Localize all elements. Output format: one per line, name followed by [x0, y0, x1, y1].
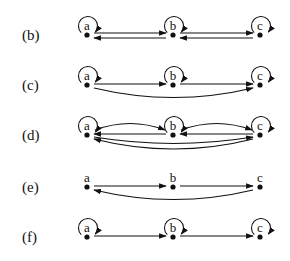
node-label-a: a	[84, 18, 90, 33]
node-dot-b	[170, 184, 175, 189]
node-label-c: c	[257, 170, 263, 185]
node-dot-c	[257, 82, 262, 87]
edge-a-to-b	[95, 124, 165, 131]
node-dot-a	[84, 234, 89, 239]
node-dot-a	[84, 32, 89, 37]
edge-b-to-c	[181, 124, 252, 131]
node-dot-b	[170, 32, 175, 37]
node-dot-a	[84, 184, 89, 189]
node-label-c: c	[257, 68, 263, 83]
node-dot-c	[257, 234, 262, 239]
graph-canvas: abcabcabcabcabc	[0, 0, 290, 261]
node-dot-c	[257, 184, 262, 189]
node-dot-a	[84, 132, 89, 137]
node-label-b: b	[170, 118, 177, 133]
node-label-b: b	[170, 68, 177, 83]
node-dot-c	[257, 132, 262, 137]
node-label-c: c	[257, 118, 263, 133]
node-label-a: a	[84, 170, 90, 185]
node-dot-b	[170, 82, 175, 87]
edge-a-to-c	[94, 88, 253, 98]
node-dot-c	[257, 32, 262, 37]
node-label-a: a	[84, 220, 90, 235]
node-dot-b	[170, 132, 175, 137]
node-dot-b	[170, 234, 175, 239]
edge-c-to-a	[94, 190, 253, 200]
node-label-a: a	[84, 118, 90, 133]
node-label-b: b	[170, 18, 177, 33]
node-label-b: b	[170, 170, 177, 185]
node-label-b: b	[170, 220, 177, 235]
edge-a-to-c	[94, 137, 253, 144]
node-label-a: a	[84, 68, 90, 83]
node-label-c: c	[257, 220, 263, 235]
node-label-c: c	[257, 18, 263, 33]
node-dot-a	[84, 82, 89, 87]
